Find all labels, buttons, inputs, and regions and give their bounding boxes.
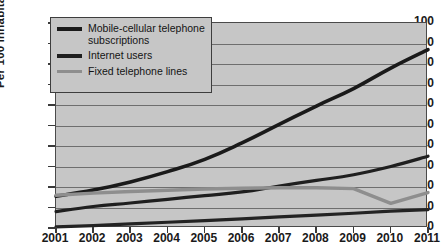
y-axis-title: Per 100 inhabitants: [0, 0, 6, 88]
chart-legend: Mobile-cellular telephone subscriptionsI…: [50, 17, 212, 93]
y-tick-mark: [48, 145, 55, 147]
grid-line: [56, 187, 426, 188]
y-tick-mark: [48, 227, 55, 229]
x-tick-mark: [204, 227, 206, 233]
x-tick-mark: [390, 227, 392, 233]
x-tick-mark: [129, 227, 131, 233]
legend-item[interactable]: Mobile-cellular telephone subscriptions: [57, 23, 205, 46]
x-tick-label: 2011: [404, 231, 445, 245]
legend-item[interactable]: Fixed telephone lines: [57, 66, 205, 78]
x-tick-mark: [427, 227, 429, 233]
y-tick-mark: [48, 125, 55, 127]
x-tick-mark: [55, 227, 57, 233]
y-tick-mark: [48, 186, 55, 188]
legend-swatch-icon: [57, 27, 82, 31]
x-tick-mark: [167, 227, 169, 233]
legend-item-label: Mobile-cellular telephone subscriptions: [88, 23, 205, 46]
legend-item-label: Internet users: [88, 50, 152, 62]
x-tick-mark: [278, 227, 280, 233]
x-tick-mark: [241, 227, 243, 233]
x-tick-mark: [353, 227, 355, 233]
y-tick-mark: [48, 166, 55, 168]
legend-item[interactable]: Internet users: [57, 50, 205, 62]
legend-swatch-icon: [57, 70, 82, 74]
y-tick-mark: [48, 207, 55, 209]
x-tick-mark: [315, 227, 317, 233]
legend-swatch-icon: [57, 54, 82, 58]
legend-item-label: Fixed telephone lines: [88, 66, 187, 78]
grid-line: [56, 126, 426, 127]
series-line: [56, 188, 428, 204]
grid-line: [56, 105, 426, 106]
y-tick-mark: [48, 104, 55, 106]
series-line: [56, 156, 428, 211]
x-tick-mark: [92, 227, 94, 233]
grid-line: [56, 208, 426, 209]
series-line: [56, 210, 428, 227]
grid-line: [56, 167, 426, 168]
grid-line: [56, 146, 426, 147]
